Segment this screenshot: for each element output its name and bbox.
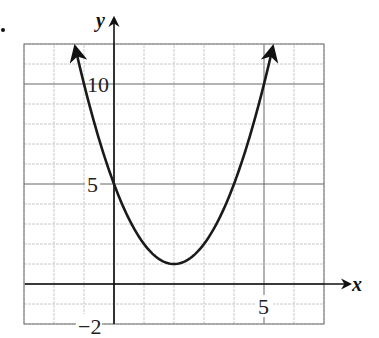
svg-text:−2: −2 [78,314,101,338]
y-axis-label: y [94,9,105,32]
svg-text:10: 10 [87,72,109,97]
x-axis-label: x [351,273,362,295]
svg-text:5: 5 [258,294,269,319]
tick-labels: 105−25 [76,72,273,338]
parabola-graph: x y 105−25 [0,0,379,338]
problem-bullet-dot [1,28,5,32]
svg-text:5: 5 [87,172,98,197]
grid [24,44,324,324]
